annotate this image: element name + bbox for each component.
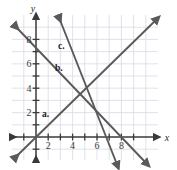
line-label-c: c. — [58, 41, 65, 51]
y-tick-label-2: 2 — [27, 107, 32, 118]
line-label-b: b. — [55, 63, 63, 73]
data-lines — [17, 18, 158, 167]
x-tick-label-4: 4 — [70, 140, 75, 151]
x-axis-label: x — [164, 132, 170, 143]
x-tick-label-8: 8 — [119, 140, 124, 151]
y-tick-label-8: 8 — [27, 34, 32, 45]
y-axis-label: y — [30, 3, 36, 14]
coordinate-graph-figure: 2 4 6 8 2 4 6 8 y x c. b. a. — [0, 0, 177, 170]
line-a — [17, 18, 158, 156]
x-tick-label-2: 2 — [46, 140, 51, 151]
line-label-a: a. — [42, 109, 49, 119]
y-tick-label-6: 6 — [27, 58, 32, 69]
plot-svg: 2 4 6 8 2 4 6 8 y x c. b. a. — [0, 0, 177, 170]
x-tick-label-6: 6 — [95, 140, 100, 151]
y-tick-label-4: 4 — [27, 83, 32, 94]
